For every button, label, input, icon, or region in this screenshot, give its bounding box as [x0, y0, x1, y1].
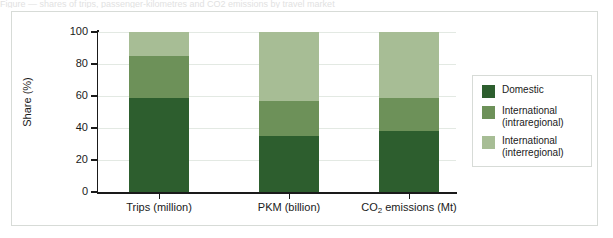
x-axis-label-2: PKM (billion) [219, 201, 359, 213]
plot-area [98, 32, 456, 192]
y-tick-label-40: 40 [48, 122, 88, 133]
y-tick-label-60: 60 [48, 90, 88, 101]
y-tick-mark-0 [91, 191, 98, 193]
legend-label-1: Domestic [502, 84, 544, 96]
legend-label-3: International(interregional) [502, 135, 564, 158]
y-tick-mark-60 [91, 95, 98, 97]
legend-item-1[interactable]: Domestic [482, 84, 583, 98]
y-tick-label-80: 80 [48, 58, 88, 69]
y-axis-title: Share (%) [21, 62, 33, 142]
y-tick-label-0: 0 [48, 186, 88, 197]
bar-1 [129, 32, 189, 192]
x-axis-line [97, 192, 457, 194]
bar-2-segment-1 [259, 136, 319, 192]
x-tick-mark-2 [289, 194, 290, 199]
y-tick-mark-40 [91, 127, 98, 129]
bar-1-segment-1 [129, 98, 189, 192]
bar-1-segment-2 [129, 56, 189, 98]
bar-2-segment-3 [259, 32, 319, 101]
bar-3 [379, 32, 439, 192]
cropped-caption-strip: Figure — shares of trips, passenger-kilo… [0, 0, 613, 8]
y-tick-label-20: 20 [48, 154, 88, 165]
y-axis-tick-labels: 020406080100 [38, 12, 88, 227]
figure-frame: Share (%) 020406080100 DomesticInternati… [11, 11, 598, 226]
chart-legend: DomesticInternational(intraregional)Inte… [472, 75, 592, 167]
legend-swatch-icon-1 [482, 85, 495, 98]
y-tick-label-100: 100 [48, 26, 88, 37]
bar-3-segment-3 [379, 32, 439, 98]
y-tick-mark-20 [91, 159, 98, 161]
bar-1-segment-3 [129, 32, 189, 56]
bar-3-segment-1 [379, 131, 439, 192]
bar-3-segment-2 [379, 98, 439, 132]
bar-2 [259, 32, 319, 192]
y-tick-mark-100 [91, 31, 98, 33]
legend-swatch-icon-2 [482, 106, 495, 119]
y-tick-mark-80 [91, 63, 98, 65]
x-tick-mark-3 [409, 194, 410, 199]
legend-label-2: International(intraregional) [502, 105, 564, 128]
x-axis-label-1: Trips (million) [89, 201, 229, 213]
bar-2-segment-2 [259, 101, 319, 136]
legend-item-2[interactable]: International(intraregional) [482, 105, 583, 128]
legend-item-3[interactable]: International(interregional) [482, 135, 583, 158]
x-axis-label-3: CO2 emissions (Mt) [339, 201, 479, 213]
legend-swatch-icon-3 [482, 136, 495, 149]
x-tick-mark-1 [159, 194, 160, 199]
